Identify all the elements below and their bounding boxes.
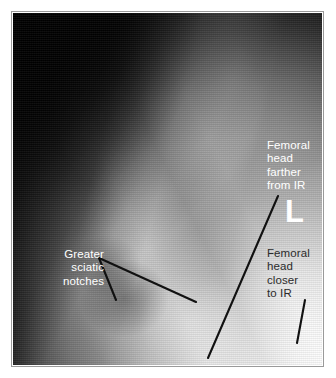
radiograph-figure: Greater sciatic notches Femoral head far… [0,0,336,378]
film-grain [13,13,322,365]
radiograph-image [13,13,322,365]
